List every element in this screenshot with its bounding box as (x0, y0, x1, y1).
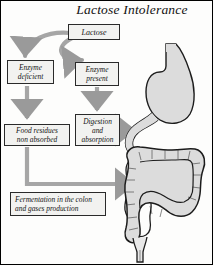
rectum-organ (133, 237, 147, 262)
arrow-lactose-to-enzyme-present (61, 38, 82, 60)
node-digestion-line1: Digestion (83, 117, 112, 126)
node-food-residues: Food residues non absorbed (4, 124, 70, 146)
node-lactose-label: Lactose (82, 28, 107, 37)
arrow-food-residues-to-colon (27, 147, 134, 184)
node-digestion-line3: absorption (81, 135, 113, 144)
node-fermentation-line2: and gases production (15, 204, 78, 213)
node-digestion: Digestion and absorption (75, 114, 120, 146)
figure-title: Lactose Intolerance (58, 2, 206, 18)
node-food-residues-line2: non absorbed (17, 135, 57, 144)
node-enzyme-deficient-line1: Enzyme (19, 63, 42, 72)
node-enzyme-present: Enzyme present (75, 62, 119, 86)
node-enzyme-deficient: Enzyme deficient (7, 60, 54, 84)
node-food-residues-line1: Food residues (16, 126, 58, 135)
stomach-organ (146, 44, 194, 123)
node-enzyme-present-line1: Enzyme (86, 65, 109, 74)
node-enzyme-present-line2: present (86, 74, 107, 83)
large-intestine-organ (125, 147, 205, 243)
node-lactose: Lactose (68, 24, 120, 40)
node-fermentation: Fermentation in the colon and gases prod… (10, 192, 106, 216)
node-enzyme-deficient-line2: deficient (18, 72, 43, 81)
node-fermentation-line1: Fermentation in the colon (15, 195, 92, 204)
figure-canvas: Lactose Intolerance Lactose Enzyme defic… (0, 0, 214, 266)
node-digestion-line2: and (92, 126, 103, 135)
